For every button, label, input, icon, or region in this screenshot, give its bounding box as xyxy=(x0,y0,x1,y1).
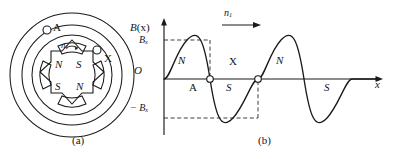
annotation-s-first-half-wave: S xyxy=(226,82,232,93)
y-axis-title-symbol: B xyxy=(130,21,137,33)
pole-shoe-right xyxy=(93,61,104,89)
terminal-a-marker xyxy=(43,26,51,34)
y-tick-label-positive: Bx xyxy=(139,35,148,46)
rotor-speed-label: n1 xyxy=(61,41,68,51)
marker-point-a xyxy=(207,76,214,83)
annotation-n-second-half-wave: N xyxy=(276,55,283,66)
y-tick-label-negative: − Bx xyxy=(130,103,148,114)
y-axis-title: B(x) xyxy=(130,22,150,33)
terminal-x-marker xyxy=(93,46,101,54)
annotation-n-first-half-wave: N xyxy=(178,55,185,66)
terminal-a-label: A xyxy=(53,22,61,33)
figure-container: A X n1 N S S N (a) B(x) Bx xyxy=(0,0,393,159)
marker-label-x: X xyxy=(229,56,237,67)
pole-shoe-bottom xyxy=(58,96,86,107)
machine-cross-section xyxy=(0,0,140,159)
terminal-x-label: X xyxy=(104,53,112,64)
y-tick-positive-subscript: x xyxy=(145,38,148,45)
y-tick-negative-symbol: − B xyxy=(130,102,145,113)
caption-b: (b) xyxy=(258,135,271,146)
rotor-speed-subscript: 1 xyxy=(66,44,69,50)
y-axis-arrowhead xyxy=(161,18,167,26)
y-tick-negative-subscript: x xyxy=(145,106,148,113)
x-axis-title: x xyxy=(375,79,380,90)
rotor-pole-label-s-upper-right: S xyxy=(76,59,82,70)
pole-shoe-left xyxy=(40,61,51,89)
marker-label-a: A xyxy=(189,82,197,93)
direction-speed-subscript: 1 xyxy=(229,11,232,18)
direction-speed-label: n1 xyxy=(224,8,232,19)
annotation-s-second-half-wave: S xyxy=(324,82,330,93)
caption-a: (a) xyxy=(72,135,84,146)
rotor-pole-label-n-lower-right: N xyxy=(76,81,83,92)
stator-outer-circle xyxy=(10,13,134,137)
y-axis-title-argument: (x) xyxy=(137,21,150,33)
origin-label: O xyxy=(134,65,142,76)
rotor-pole-label-s-lower-left: S xyxy=(55,81,61,92)
rotor-pole-label-n-upper-left: N xyxy=(55,59,62,70)
marker-point-x xyxy=(255,76,262,83)
direction-arrow xyxy=(222,22,261,28)
